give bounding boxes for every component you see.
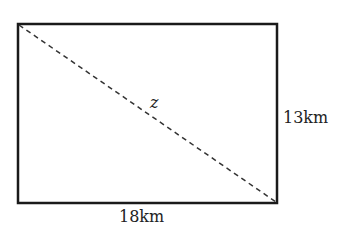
- width-label: 18km: [119, 207, 164, 226]
- height-label: 13km: [283, 108, 328, 127]
- rectangle-diagram: z 13km 18km: [0, 0, 357, 243]
- diagonal-dashed-line: [19, 25, 276, 202]
- diagonal-label: z: [149, 93, 159, 112]
